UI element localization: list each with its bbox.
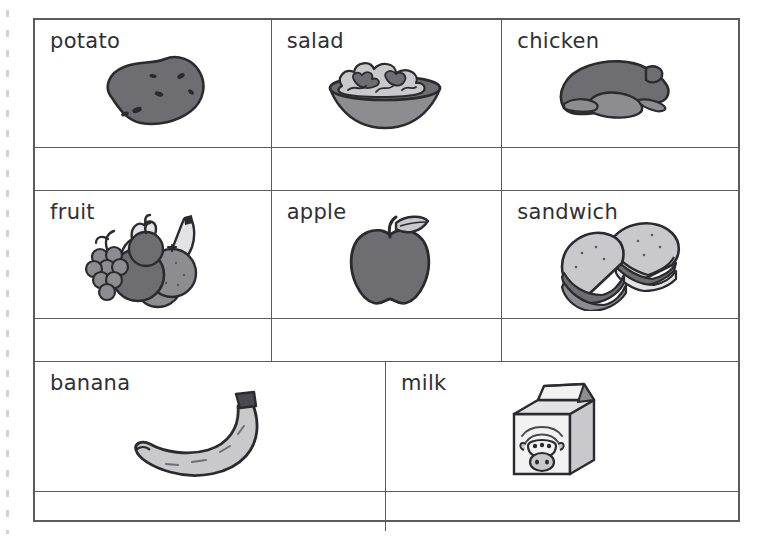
answer-cell-fruit[interactable] <box>35 319 271 361</box>
answer-row-1 <box>35 147 738 191</box>
answer-row-3 <box>35 491 738 531</box>
answer-cell-apple[interactable] <box>271 319 502 361</box>
page-margin-perforation-marks <box>6 10 9 534</box>
picture-row-3: banana milk <box>35 362 738 491</box>
picture-cell-banana[interactable]: banana <box>35 362 385 491</box>
picture-cell-sandwich[interactable]: sandwich <box>501 191 738 318</box>
vocabulary-picture-grid: potato salad <box>33 18 740 522</box>
picture-row-2: fruit <box>35 191 738 318</box>
answer-cell-banana[interactable] <box>35 492 385 531</box>
answer-cell-milk[interactable] <box>385 492 738 531</box>
potato-illustration <box>97 54 209 128</box>
answer-cell-sandwich[interactable] <box>501 319 738 361</box>
answer-cell-potato[interactable] <box>35 148 271 190</box>
picture-label-potato: potato <box>50 29 120 53</box>
apple-illustration <box>344 213 436 309</box>
banana-illustration <box>130 388 286 482</box>
picture-cell-potato[interactable]: potato <box>35 20 271 147</box>
sandwich-halves-illustration <box>548 213 684 311</box>
picture-label-apple: apple <box>287 200 347 224</box>
picture-label-milk: milk <box>401 371 447 395</box>
answer-cell-chicken[interactable] <box>501 148 738 190</box>
picture-cell-fruit[interactable]: fruit <box>35 191 271 318</box>
answer-cell-salad[interactable] <box>271 148 502 190</box>
picture-cell-milk[interactable]: milk <box>385 362 738 491</box>
salad-bowl-illustration <box>324 50 446 132</box>
picture-cell-chicken[interactable]: chicken <box>501 20 738 147</box>
roast-chicken-illustration <box>550 56 676 126</box>
mixed-fruit-illustration <box>80 211 210 315</box>
picture-label-chicken: chicken <box>517 29 599 53</box>
picture-cell-apple[interactable]: apple <box>271 191 502 318</box>
milk-carton-illustration <box>504 378 604 482</box>
picture-label-banana: banana <box>50 371 130 395</box>
picture-row-1: potato salad <box>35 20 738 147</box>
picture-cell-salad[interactable]: salad <box>271 20 502 147</box>
answer-row-2 <box>35 318 738 362</box>
